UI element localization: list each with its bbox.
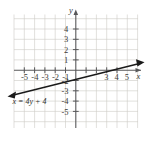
y-axis-label: y [68, 5, 73, 15]
x-axis-label: x [136, 71, 141, 81]
coordinate-plane-chart: -5 -4 -3 -2 -1 3 4 5 4 3 2 1 -2 -3 -4 -5… [0, 0, 148, 141]
y-tick-label--2: -2 [61, 76, 68, 86]
y-axis-arrow-icon [74, 10, 79, 16]
y-tick-label-2: 2 [64, 45, 68, 55]
y-tick-label--5: -5 [61, 107, 68, 117]
y-tick-label--3: -3 [61, 86, 68, 96]
y-tick-label-3: 3 [64, 34, 68, 44]
x-tick-label-3: 3 [104, 72, 108, 82]
x-tick-label--4: -4 [31, 72, 39, 82]
y-tick-label--4: -4 [61, 96, 69, 106]
graph-figure: -5 -4 -3 -2 -1 3 4 5 4 3 2 1 -2 -3 -4 -5… [0, 0, 148, 141]
x-tick-label-5: 5 [125, 72, 129, 82]
y-tick-label-1: 1 [64, 55, 68, 65]
line-arrow-right-icon [136, 59, 145, 66]
x-tick-label--5: -5 [21, 72, 28, 82]
x-tick-label--2: -2 [52, 72, 59, 82]
x-tick-label--3: -3 [42, 72, 49, 82]
line-equation-label: x = 4y + 4 [12, 97, 47, 106]
